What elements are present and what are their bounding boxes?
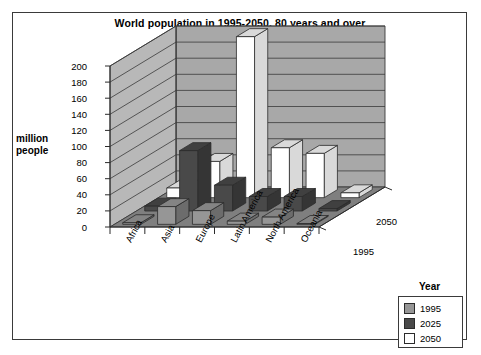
legend-item-2050[interactable]: 2050 — [404, 331, 462, 346]
depth-axis-label-2050: 2050 — [376, 216, 397, 227]
legend: 199520252050 — [398, 296, 463, 348]
bar-side-face — [198, 143, 211, 211]
y-tick-label-200: 200 — [57, 62, 87, 72]
legend-item-1995[interactable]: 1995 — [404, 301, 462, 316]
chart-screenshot: World population in 1995-2050, 80 years … — [0, 0, 481, 355]
y-tick-label-120: 120 — [57, 126, 87, 136]
depth-axis-tick-1 — [385, 187, 392, 190]
legend-label-1995: 1995 — [420, 304, 441, 314]
y-tick-label-40: 40 — [57, 190, 87, 200]
depth-axis-tick-0 — [319, 227, 326, 230]
y-tick-label-60: 60 — [57, 174, 87, 184]
y-tick-label-100: 100 — [57, 142, 87, 152]
y-tick-label-0: 0 — [57, 223, 87, 233]
legend-item-2025[interactable]: 2025 — [404, 316, 462, 331]
y-tick-label-20: 20 — [57, 206, 87, 216]
legend-title: Year — [419, 281, 440, 292]
legend-swatch-2025 — [404, 318, 415, 329]
bar-front-face — [341, 193, 359, 198]
legend-swatch-1995 — [404, 303, 415, 314]
y-tick-label-80: 80 — [57, 158, 87, 168]
bar-side-face — [324, 145, 337, 197]
y-axis-tick-labels: 020406080100120140160180200 — [57, 58, 87, 234]
y-tick-label-160: 160 — [57, 94, 87, 104]
bar-front-face — [236, 37, 254, 198]
legend-swatch-2050 — [404, 333, 415, 344]
bar-side-face — [255, 29, 268, 198]
bar-europe-2050 — [236, 29, 267, 198]
y-tick-label-180: 180 — [57, 78, 87, 88]
y-tick-label-140: 140 — [57, 110, 87, 120]
legend-label-2025: 2025 — [420, 319, 441, 329]
legend-label-2050: 2050 — [420, 334, 441, 344]
depth-axis-label-1995: 1995 — [353, 246, 374, 257]
